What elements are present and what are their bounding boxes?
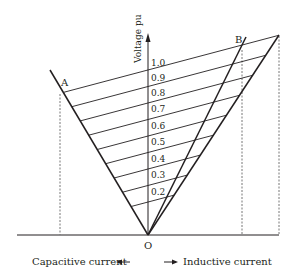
tick-label: 0.3	[151, 170, 166, 180]
point-a-label: A	[60, 77, 69, 88]
origin-label: O	[144, 240, 152, 251]
capacitor-characteristic-line	[50, 70, 148, 235]
tick-label: 0.5	[151, 137, 166, 147]
tick-label: 0.7	[151, 104, 166, 114]
vi-characteristic-diagram: 1.0 0.9 0.8 0.7 0.6 0.5 0.4 0.3 0.2 Volt…	[0, 0, 292, 272]
point-b-label: B	[235, 34, 242, 45]
voltage-axis-title: Voltage pu	[133, 14, 143, 64]
tick-label: 0.4	[151, 154, 166, 164]
inductive-current-label: Inductive current	[183, 256, 272, 267]
tick-label: 0.2	[151, 187, 165, 197]
tick-label: 0.8	[151, 88, 166, 98]
voltage-level-lines	[63, 35, 278, 206]
tick-label: 1.0	[151, 58, 166, 68]
diagram-canvas: 1.0 0.9 0.8 0.7 0.6 0.5 0.4 0.3 0.2 Volt…	[0, 0, 292, 272]
tick-label: 0.9	[151, 73, 166, 83]
capacitive-current-label: Capacitive current	[32, 256, 127, 267]
voltage-axis-arrow-icon	[146, 33, 151, 42]
tick-label: 0.6	[151, 121, 166, 131]
right-arrow-icon	[164, 260, 178, 265]
